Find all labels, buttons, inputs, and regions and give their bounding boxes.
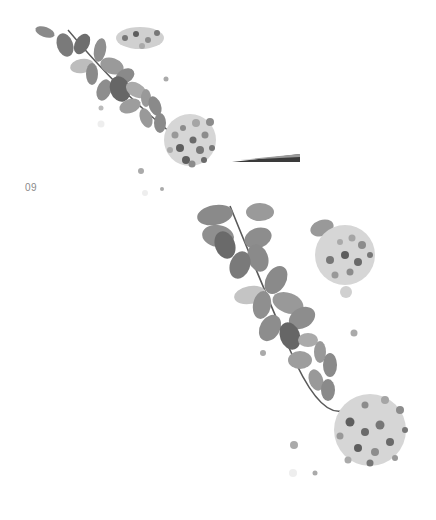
watercolor-branch-illustration-top	[0, 0, 300, 200]
flower-cluster-partial	[116, 27, 164, 49]
flower-cluster	[315, 225, 375, 298]
bottom-illustration	[180, 200, 436, 520]
top-illustration	[0, 0, 300, 200]
paint-dots	[260, 330, 358, 478]
paintbrush-icon	[232, 154, 300, 162]
flower-cluster	[334, 394, 408, 467]
page-number: 09	[25, 182, 37, 193]
flower-cluster	[164, 114, 216, 168]
watercolor-branch-illustration-bottom	[180, 200, 436, 520]
leaf-group	[196, 202, 340, 401]
